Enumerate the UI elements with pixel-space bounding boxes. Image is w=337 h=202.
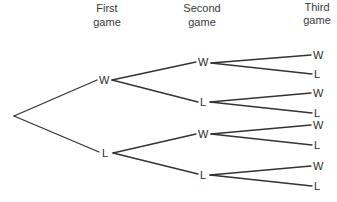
second-to-third-branches	[210, 55, 312, 186]
node-third-w-4: W	[313, 160, 324, 172]
branch-root-to-first-w	[14, 80, 97, 116]
node-third-l-4: L	[314, 180, 320, 192]
branch-second-l2-to-third-l	[210, 175, 312, 186]
root-branches	[14, 80, 99, 152]
node-second-l-1: L	[200, 96, 206, 108]
node-third-w-1: W	[313, 49, 324, 61]
node-third-w-3: W	[313, 119, 324, 131]
branch-second-w1-to-third-l	[211, 63, 312, 74]
branch-second-w1-to-third-w	[211, 55, 311, 63]
tree-diagram: First game Second game Third game W L W …	[0, 0, 337, 202]
node-second-w-2: W	[198, 128, 209, 140]
header-third-game-line2: game	[303, 14, 331, 26]
branch-first-w-to-second-l	[112, 80, 198, 102]
header-second-game-line2: game	[188, 16, 216, 28]
second-game-nodes: W L W L	[198, 56, 209, 181]
node-second-l-2: L	[200, 169, 206, 181]
third-game-nodes: W L W L W L W L	[313, 49, 324, 192]
node-first-l: L	[102, 147, 108, 159]
header-second-game-line1: Second	[183, 2, 220, 14]
branch-first-w-to-second-w	[112, 62, 196, 80]
node-third-l-2: L	[314, 107, 320, 119]
header-first-game-line1: First	[96, 2, 117, 14]
node-second-w-1: W	[198, 56, 209, 68]
branch-second-w2-to-third-l	[211, 134, 312, 145]
header-third-game-line1: Third	[304, 1, 329, 13]
header-first-game-line2: game	[93, 16, 121, 28]
branch-first-l-to-second-w	[113, 134, 196, 153]
branch-second-l1-to-third-w	[210, 93, 311, 102]
node-third-w-2: W	[313, 87, 324, 99]
first-game-nodes: W L	[99, 74, 110, 159]
column-headers: First game Second game Third game	[93, 1, 331, 28]
node-third-l-1: L	[314, 68, 320, 80]
branch-root-to-first-l	[14, 116, 99, 152]
branch-second-l2-to-third-w	[210, 166, 311, 175]
branch-second-w2-to-third-w	[211, 125, 311, 134]
branch-second-l1-to-third-l	[210, 102, 312, 113]
first-to-second-branches	[112, 62, 198, 174]
node-first-w: W	[99, 74, 110, 86]
branch-first-l-to-second-l	[113, 153, 198, 174]
node-third-l-3: L	[314, 139, 320, 151]
